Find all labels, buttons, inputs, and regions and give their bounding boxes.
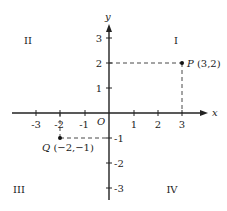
origin-label: O	[97, 116, 105, 127]
y-tick-label: -1	[114, 133, 124, 144]
coordinate-plane: -3 -2 -1 1 2 3 3 2 1 -1 -2 -3 x y O II I…	[0, 0, 227, 211]
point-p-guides	[109, 63, 182, 113]
y-tick-label: -3	[114, 183, 124, 194]
y-axis	[106, 24, 112, 200]
quadrant-label-iv: IV	[166, 184, 178, 195]
x-axis	[12, 110, 208, 116]
x-tick-label: -3	[31, 119, 41, 130]
y-tick-label: 3	[96, 33, 102, 44]
y-tick-label: 2	[96, 58, 102, 69]
point-p-label: P (3,2)	[186, 58, 221, 69]
y-axis-label: y	[104, 11, 111, 22]
quadrant-label-iii: III	[13, 184, 25, 195]
x-tick-label: 2	[155, 119, 161, 130]
x-tick-label: -2	[54, 119, 64, 130]
y-tick-label: -2	[114, 158, 124, 169]
point-q-name: Q	[42, 142, 50, 153]
point-p-name: P	[186, 58, 194, 69]
y-tick-label: 1	[96, 83, 102, 94]
point-q-marker	[58, 136, 62, 140]
x-tick-label: 1	[131, 119, 137, 130]
quadrant-label-ii: II	[24, 35, 32, 46]
x-tick-label: 3	[179, 119, 185, 130]
point-q-coords: (−2,−1)	[53, 142, 94, 153]
x-tick-label: -1	[79, 119, 89, 130]
quadrant-label-i: I	[174, 35, 178, 46]
point-p-marker	[180, 61, 184, 65]
point-q-label: Q (−2,−1)	[42, 142, 94, 153]
x-axis-label: x	[212, 107, 218, 118]
point-p-coords: (3,2)	[197, 58, 221, 69]
